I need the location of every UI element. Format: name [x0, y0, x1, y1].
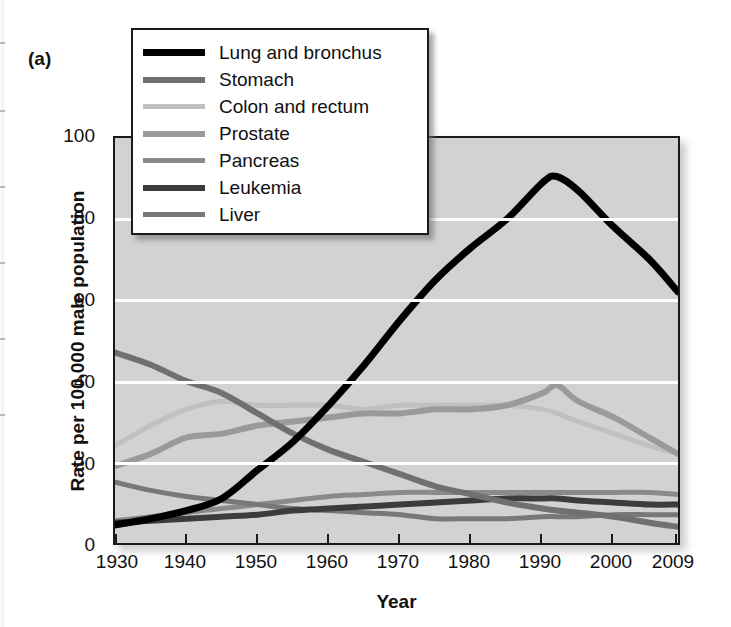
legend-swatch-liver: [143, 212, 205, 217]
legend-swatch-leukemia: [143, 185, 205, 191]
legend-swatch-prostate: [143, 131, 205, 137]
x-tick-mark-1950: [256, 534, 258, 543]
legend-label-pancreas: Pancreas: [219, 151, 299, 170]
x-tick-label-1940: 1940: [164, 551, 206, 573]
gridline-60: [115, 299, 678, 302]
legend-label-stomach: Stomach: [219, 70, 294, 89]
legend-swatch-lung-and-bronchus: [143, 49, 205, 56]
legend: Lung and bronchus Stomach Colon and rect…: [131, 28, 429, 235]
legend-item-leukemia: Leukemia: [143, 174, 417, 201]
legend-label-colon-and-rectum: Colon and rectum: [219, 97, 369, 116]
x-tick-mark-1970: [398, 534, 400, 543]
x-tick-mark-1980: [469, 534, 471, 543]
x-tick-mark-2009: [675, 534, 677, 543]
x-tick-label-2000: 2000: [590, 551, 632, 573]
legend-label-prostate: Prostate: [219, 124, 290, 143]
legend-item-pancreas: Pancreas: [143, 147, 417, 174]
legend-swatch-stomach: [143, 77, 205, 83]
x-tick-label-1960: 1960: [306, 551, 348, 573]
legend-item-stomach: Stomach: [143, 66, 417, 93]
x-tick-mark-1940: [185, 534, 187, 543]
y-tick-label-60: 60: [49, 289, 95, 311]
x-tick-mark-2000: [611, 534, 613, 543]
y-tick-label-20: 20: [49, 453, 95, 475]
page-edge-artifact: [0, 0, 6, 627]
legend-item-lung-and-bronchus: Lung and bronchus: [143, 39, 417, 66]
legend-swatch-pancreas: [143, 158, 205, 163]
legend-swatch-colon-and-rectum: [143, 104, 205, 109]
x-tick-label-1990: 1990: [519, 551, 561, 573]
legend-label-lung-and-bronchus: Lung and bronchus: [219, 43, 382, 62]
x-tick-label-1930: 1930: [96, 551, 138, 573]
x-tick-mark-1930: [115, 534, 117, 543]
legend-item-liver: Liver: [143, 201, 417, 228]
y-tick-label-0: 0: [49, 534, 95, 556]
x-tick-mark-1960: [327, 534, 329, 543]
legend-item-colon-and-rectum: Colon and rectum: [143, 93, 417, 120]
x-tick-label-1950: 1950: [235, 551, 277, 573]
gridline-20: [115, 462, 678, 465]
legend-item-prostate: Prostate: [143, 120, 417, 147]
x-tick-mark-1990: [540, 534, 542, 543]
y-tick-label-100: 100: [49, 125, 95, 147]
y-tick-label-40: 40: [49, 371, 95, 393]
y-tick-label-80: 80: [49, 207, 95, 229]
legend-label-liver: Liver: [219, 205, 260, 224]
x-tick-label-1970: 1970: [377, 551, 419, 573]
x-axis-title: Year: [113, 591, 680, 613]
figure-cancer-death-rates-male: (a) Rate per 100,000 male population 100…: [0, 0, 731, 627]
panel-label: (a): [28, 48, 51, 70]
x-tick-label-1980: 1980: [448, 551, 490, 573]
legend-label-leukemia: Leukemia: [219, 178, 301, 197]
gridline-40: [115, 381, 678, 384]
x-tick-label-2009: 2009: [652, 551, 694, 573]
